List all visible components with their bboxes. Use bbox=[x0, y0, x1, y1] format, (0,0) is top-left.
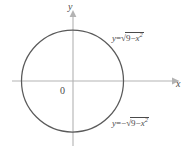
x-axis-label: x bbox=[176, 79, 180, 89]
equation-label-upper-semicircle: y=√9−x2 bbox=[112, 34, 144, 43]
eq-upper-radicand: 9−x2 bbox=[125, 32, 144, 43]
origin-label: 0 bbox=[60, 86, 65, 96]
eq-lower-exponent: 2 bbox=[145, 116, 148, 123]
eq-lower-radicand: 9−x2 bbox=[130, 117, 149, 128]
math-figure-circle: y x 0 y=√9−x2 y=−√9−x2 bbox=[0, 0, 188, 156]
eq-upper-exponent: 2 bbox=[140, 31, 143, 38]
equation-label-lower-semicircle: y=−√9−x2 bbox=[112, 119, 149, 128]
figure-canvas bbox=[0, 0, 188, 156]
y-axis-label: y bbox=[68, 2, 72, 12]
